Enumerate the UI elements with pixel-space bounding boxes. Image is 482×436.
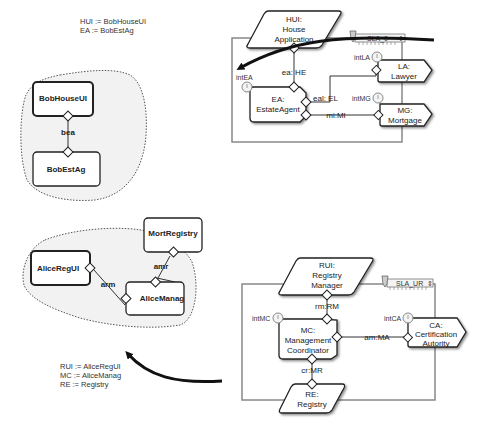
svg-text:Autority: Autority	[422, 339, 449, 348]
svg-text:LA:: LA:	[398, 62, 410, 71]
svg-text:EA:: EA:	[272, 95, 285, 104]
component-mg-mortgage[interactable]: MG: Mortgage	[374, 104, 432, 126]
node-bob-est-ag[interactable]: BobEstAg	[33, 147, 100, 186]
wire-label-ea-he: ea: HE	[282, 68, 306, 77]
wire-label-amr: amr	[154, 262, 169, 271]
svg-text:RE:: RE:	[305, 390, 318, 399]
svg-text:Certification: Certification	[415, 330, 457, 339]
bottom-configuration: AliceRegUI arm MortRegistry amr AliceMan…	[23, 218, 202, 327]
svg-text:MC:: MC:	[301, 326, 316, 335]
interaction-label-int-mc: intMC	[252, 315, 270, 322]
reconfiguration-arrow-bottom	[128, 354, 222, 382]
svg-text:HUI:: HUI:	[286, 15, 302, 24]
node-mort-registry[interactable]: MortRegistry	[144, 218, 202, 257]
component-mc-management-coordinator[interactable]: MC: Management Coordinator	[279, 314, 342, 364]
component-rui-registry-manager[interactable]: RUI: Registry Manager	[279, 258, 373, 300]
svg-text:EstateAgent: EstateAgent	[256, 105, 300, 114]
sla-ruler-bottom[interactable]: SLA_UR ⇕	[382, 276, 433, 290]
wire-label-rm-rm: rm:RM	[315, 302, 339, 311]
svg-text:MortRegistry: MortRegistry	[148, 229, 198, 238]
sla-label-bottom: SLA_UR	[396, 280, 423, 288]
assignment-2: MC := AliceManag	[60, 371, 121, 380]
svg-text:Lawyer: Lawyer	[391, 72, 417, 81]
interaction-label-int-la: intLA	[354, 54, 370, 61]
bottom-architecture: SLA_UR ⇕ RUI: Registry Manager rm:RM MC:…	[242, 258, 466, 413]
svg-text:RUI:: RUI:	[319, 261, 335, 270]
svg-text:Management: Management	[285, 336, 332, 345]
wire-label-cr-mr: cr:MR	[301, 366, 323, 375]
component-re-registry[interactable]: RE: Registry	[279, 379, 344, 413]
interaction-label-int-ca: intCA	[384, 315, 401, 322]
wire-label-eal-el: eal: EL	[313, 94, 338, 103]
wire-label-bea: bea	[61, 128, 75, 137]
svg-text:AliceRegUI: AliceRegUI	[37, 264, 79, 273]
svg-text:Mortgage: Mortgage	[388, 116, 422, 125]
component-ea-estate-agent[interactable]: EA: EstateAgent	[250, 82, 311, 122]
top-architecture: SLA_0 ⇕ HUI: House Application ea: HE EA…	[232, 11, 432, 142]
component-la-lawyer[interactable]: LA: Lawyer	[372, 60, 432, 82]
svg-text:Registry: Registry	[312, 271, 341, 280]
assignment-3: RE := Registry	[60, 380, 109, 389]
svg-text:AliceManag: AliceManag	[140, 294, 185, 303]
svg-text:Manager: Manager	[311, 281, 343, 290]
assignment-1: HUI := BobHouseUI	[80, 17, 146, 26]
svg-text:BobHouseUI: BobHouseUI	[39, 94, 87, 103]
interaction-label-int-mg: intMG	[352, 95, 371, 102]
component-ca-certification-authority[interactable]: CA: Certification Autority	[403, 318, 466, 348]
node-bob-house-ui[interactable]: BobHouseUI	[33, 82, 93, 121]
top-configuration: BobHouseUI bea BobEstAg	[21, 70, 147, 200]
svg-text:Registry: Registry	[297, 400, 326, 409]
node-alice-manag[interactable]: AliceManag	[121, 277, 184, 315]
diagram-canvas: SLA_0 ⇕ HUI: House Application ea: HE EA…	[0, 0, 482, 436]
svg-text:House: House	[282, 25, 306, 34]
svg-text:CA:: CA:	[429, 321, 442, 330]
sla-stepper-icon[interactable]: ⇕	[427, 280, 433, 287]
node-alice-reg-ui[interactable]: AliceRegUI	[31, 251, 95, 285]
assignment-1: RUI := AliceRegUI	[60, 362, 121, 371]
wire-label-am-ma: am:MA	[364, 333, 390, 342]
interaction-label-int-ea: intEA	[236, 74, 253, 81]
svg-text:Coordinator: Coordinator	[287, 346, 329, 355]
svg-text:BobEstAg: BobEstAg	[47, 165, 86, 174]
svg-text:MG:: MG:	[397, 106, 412, 115]
wire-label-arm: arm	[101, 280, 116, 289]
assignment-2: EA := BobEstAg	[80, 26, 134, 35]
wire-label-mi-mi: mi:MI	[326, 111, 346, 120]
